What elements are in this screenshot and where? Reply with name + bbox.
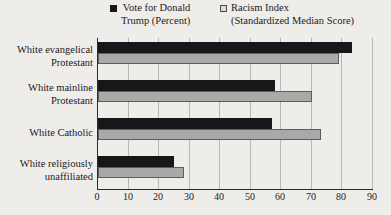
legend-label-racism-index: Racism Index (Standardized Median Score) — [231, 2, 354, 27]
bar-racism-index-white-mainline-protestant — [98, 91, 312, 102]
category-axis-labels: White evangelical Protestant White mainl… — [0, 38, 93, 190]
legend-swatch-open-square-icon — [220, 5, 227, 12]
x-axis-line — [97, 189, 373, 190]
bar-vote-trump-white-evangelical-protestant — [98, 42, 352, 53]
legend-entry-vote-trump: Vote for Donald Trump (Percent) — [110, 2, 190, 27]
x-axis-tick-labels: 0 10 20 30 40 50 60 70 80 90 — [0, 191, 391, 209]
category-label-white-evangelical-protestant: White evangelical Protestant — [0, 44, 93, 69]
plot-area — [97, 38, 372, 190]
legend-swatch-filled-square-icon — [110, 5, 117, 12]
tick-label-50: 50 — [245, 191, 255, 203]
bar-vote-trump-white-catholic — [98, 118, 272, 129]
bar-racism-index-white-catholic — [98, 129, 321, 140]
bar-racism-index-white-evangelical-protestant — [98, 53, 339, 64]
tick-label-80: 80 — [336, 191, 346, 203]
tick-label-0: 0 — [95, 191, 100, 203]
tick-label-60: 60 — [275, 191, 285, 203]
legend-label-vote-trump: Vote for Donald Trump (Percent) — [121, 2, 190, 27]
gridline-90 — [372, 38, 373, 190]
tick-label-90: 90 — [367, 191, 377, 203]
tick-label-10: 10 — [123, 191, 133, 203]
tick-label-20: 20 — [153, 191, 163, 203]
legend-entry-racism-index: Racism Index (Standardized Median Score) — [220, 2, 354, 27]
bar-vote-trump-white-mainline-protestant — [98, 80, 275, 91]
gridline-80 — [341, 38, 342, 190]
tick-label-40: 40 — [214, 191, 224, 203]
category-label-white-mainline-protestant: White mainline Protestant — [0, 82, 93, 107]
bar-racism-index-white-religiously-unaffiliated — [98, 167, 184, 178]
tick-label-70: 70 — [306, 191, 316, 203]
category-label-white-religiously-unaffiliated: White religiously unaffiliated — [0, 158, 93, 183]
bar-chart: Vote for Donald Trump (Percent) Racism I… — [0, 0, 391, 215]
category-label-white-catholic: White Catholic — [0, 127, 93, 140]
tick-label-30: 30 — [184, 191, 194, 203]
chart-legend: Vote for Donald Trump (Percent) Racism I… — [108, 1, 391, 37]
bar-vote-trump-white-religiously-unaffiliated — [98, 156, 174, 167]
